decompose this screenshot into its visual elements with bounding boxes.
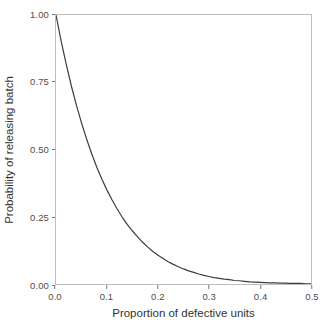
x-tick: 0.2 (151, 285, 165, 302)
y-tick-label: 1.00 (30, 9, 49, 20)
y-axis: 0.000.250.500.751.00 (0, 14, 55, 285)
x-tick: 0.0 (48, 285, 62, 302)
x-tick-label: 0.4 (254, 291, 268, 302)
x-tick-mark (54, 285, 55, 289)
oc-curve-figure: Probability of releasing batch 0.000.250… (0, 0, 331, 335)
y-tick-label: 0.50 (30, 144, 49, 155)
x-tick: 0.5 (305, 285, 319, 302)
x-tick-label: 0.5 (305, 291, 319, 302)
x-tick-mark (106, 285, 107, 289)
x-axis: 0.00.10.20.30.40.5 (55, 285, 312, 307)
x-tick-mark (311, 285, 312, 289)
y-tick: 0.75 (30, 76, 55, 88)
y-tick: 0.25 (30, 211, 55, 223)
plot-panel (55, 14, 312, 285)
x-tick-mark (157, 285, 158, 289)
y-tick-label: 0.25 (30, 212, 49, 223)
x-tick-label: 0.0 (48, 291, 62, 302)
y-tick: 1.00 (30, 8, 55, 20)
curve-plot (56, 15, 311, 284)
x-tick: 0.1 (100, 285, 114, 302)
x-tick: 0.3 (202, 285, 216, 302)
x-tick-label: 0.1 (100, 291, 114, 302)
y-tick: 0.50 (30, 144, 55, 156)
x-tick-mark (209, 285, 210, 289)
y-tick-label: 0.00 (30, 280, 49, 291)
x-tick: 0.4 (254, 285, 268, 302)
x-tick-label: 0.3 (202, 291, 216, 302)
x-tick-mark (260, 285, 261, 289)
x-axis-title: Proportion of defective units (55, 307, 312, 319)
probability-curve-line (56, 15, 311, 284)
x-tick-label: 0.2 (151, 291, 165, 302)
y-tick-label: 0.75 (30, 76, 49, 87)
